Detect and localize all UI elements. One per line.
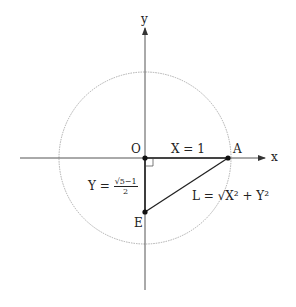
diagram-canvas (0, 0, 296, 307)
point-e-label: E (134, 216, 143, 230)
y-equation-lhs: Y = (88, 179, 110, 193)
y-axis-label: y (141, 12, 148, 26)
point-a-label: A (233, 142, 242, 156)
point-e (142, 209, 147, 214)
y-denominator: 2 (114, 187, 138, 196)
point-o-label: O (131, 142, 141, 156)
l-equation: L = √X² + Y² (192, 189, 269, 203)
y-fraction: √5−1 2 (114, 177, 138, 196)
point-o (142, 155, 147, 160)
y-equation: Y = √5−1 2 (88, 177, 138, 196)
x-axis-label: x (271, 150, 278, 164)
segment-ea (145, 158, 228, 212)
y-numerator: √5−1 (114, 177, 138, 187)
x-equation: X = 1 (171, 142, 205, 156)
point-a (225, 155, 230, 160)
